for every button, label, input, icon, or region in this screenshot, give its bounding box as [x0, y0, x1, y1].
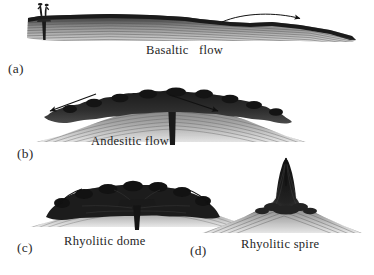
panel-marker-b: (b)	[17, 146, 33, 162]
panel-marker-a: (a)	[8, 61, 24, 77]
basaltic-flow-arrow	[222, 14, 300, 22]
caption-rhyolitic-spire: Rhyolitic spire	[241, 237, 319, 252]
panel-d-rhyolitic-spire	[198, 158, 368, 248]
panel-b-andesitic-flow	[30, 87, 312, 160]
caption-andesitic-flow: Andesitic flow	[91, 134, 169, 149]
volcanic-morphology-figure: (a) (b) (c) (d) Basaltic flow Andesitic …	[0, 0, 374, 275]
panel-marker-d: (d)	[190, 243, 206, 259]
panel-marker-c: (c)	[17, 240, 33, 256]
rhyolitic-dome-conduit-flare	[118, 199, 156, 206]
figure-artwork	[0, 0, 374, 275]
basaltic-vent-fountain	[38, 3, 50, 18]
caption-basaltic-flow: Basaltic flow	[146, 43, 223, 58]
caption-rhyolitic-dome: Rhyolitic dome	[64, 234, 146, 249]
